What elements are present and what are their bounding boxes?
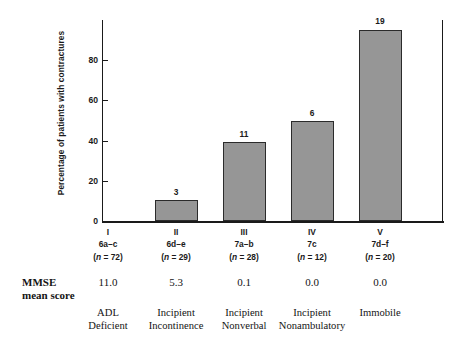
bar-value-II: 3	[149, 187, 203, 197]
bar-category-V	[359, 30, 402, 221]
mmse-value-II: 5.3	[142, 276, 210, 288]
y-axis-line	[102, 20, 103, 223]
mmse-row-label: MMSE mean score	[22, 276, 75, 301]
mmse-value-III: 0.1	[210, 276, 278, 288]
mmse-value-IV: 0.0	[278, 276, 346, 288]
category-column-III: III 7a–b (n = 28)	[210, 227, 278, 265]
category-roman-II: II	[142, 227, 210, 238]
bar-category-IV	[291, 121, 334, 221]
category-n-II: (n = 29)	[142, 250, 210, 265]
category-n-IV: (n = 12)	[278, 250, 346, 265]
category-n-V: (n = 20)	[346, 250, 414, 265]
category-roman-I: I	[74, 227, 142, 238]
category-column-II: II 6d–e (n = 29)	[142, 227, 210, 265]
y-tick-80	[103, 60, 108, 61]
category-n-I: (n = 72)	[74, 250, 142, 265]
y-tick-60	[103, 100, 108, 101]
category-roman-V: V	[346, 227, 414, 238]
category-stage-IV: 7c	[278, 238, 346, 250]
y-tick-0	[103, 221, 108, 222]
category-column-I: I 6a–c (n = 72)	[74, 227, 142, 265]
category-stage-V: 7d–f	[346, 238, 414, 250]
y-axis-title: Percentage of patients with contractures	[56, 11, 66, 216]
bar-chart-figure: Percentage of patients with contractures…	[0, 0, 458, 342]
y-tick-label-60: 60	[72, 95, 98, 105]
category-stage-II: 6d–e	[142, 238, 210, 250]
y-tick-label-40: 40	[72, 136, 98, 146]
category-description-V-line1: Immobile	[338, 306, 422, 319]
y-tick-20	[103, 181, 108, 182]
category-n-III: (n = 28)	[210, 250, 278, 265]
mmse-row-label-line2: mean score	[22, 289, 75, 302]
mmse-row-label-line1: MMSE	[22, 276, 75, 289]
category-description-IV-line2: Nonambulatory	[270, 319, 354, 332]
bar-category-II	[155, 200, 198, 221]
bar-value-III: 11	[217, 129, 271, 139]
y-tick-label-80: 80	[72, 55, 98, 65]
category-description-V: Immobile	[338, 306, 422, 319]
right-axis-line	[442, 20, 443, 223]
y-tick-40	[103, 141, 108, 142]
category-roman-IV: IV	[278, 227, 346, 238]
bar-category-III	[223, 142, 266, 221]
bar-value-IV: 6	[285, 108, 339, 118]
category-stage-III: 7a–b	[210, 238, 278, 250]
x-axis-baseline	[102, 221, 444, 223]
category-stage-I: 6a–c	[74, 238, 142, 250]
y-tick-label-20: 20	[72, 176, 98, 186]
category-column-IV: IV 7c (n = 12)	[278, 227, 346, 265]
category-roman-III: III	[210, 227, 278, 238]
y-tick-label-0: 0	[72, 216, 98, 226]
mmse-value-V: 0.0	[346, 276, 414, 288]
category-column-V: V 7d–f (n = 20)	[346, 227, 414, 265]
mmse-value-I: 11.0	[74, 276, 142, 288]
bar-value-V: 19	[353, 16, 407, 26]
